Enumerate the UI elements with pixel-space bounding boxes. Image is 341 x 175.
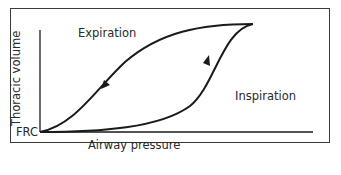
expiration-curve — [40, 24, 253, 132]
x-axis-label: Airway pressure — [88, 138, 180, 152]
inspiration-arrow-icon — [203, 55, 210, 66]
frc-label: FRC — [16, 125, 38, 139]
expiration-label: Expiration — [78, 26, 136, 40]
inspiration-label: Inspiration — [235, 89, 296, 103]
y-axis-label: Thoracic volume — [9, 31, 23, 126]
